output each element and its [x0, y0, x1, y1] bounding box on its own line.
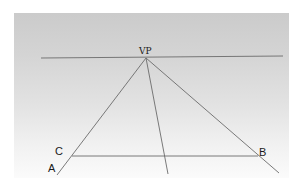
- orthogonal-line-to-a: [57, 58, 146, 175]
- point-a-label: A: [48, 163, 55, 174]
- perspective-diagram: VP C A B: [0, 0, 305, 189]
- orthogonal-line-middle: [146, 58, 168, 174]
- point-b-label: B: [259, 147, 266, 158]
- point-c-label: C: [55, 146, 63, 157]
- vanishing-point-label: VP: [139, 47, 152, 56]
- diagram-lines: [0, 0, 305, 189]
- horizon-line: [41, 56, 283, 58]
